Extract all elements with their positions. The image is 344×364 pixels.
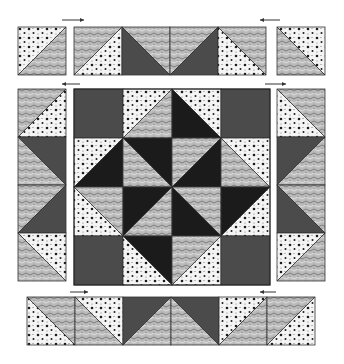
solid-square [221, 89, 270, 138]
half-square-triangle [218, 27, 266, 75]
arrow-top-left-row-icon [62, 18, 84, 22]
half-square-triangle [75, 297, 123, 345]
solid-square [74, 236, 123, 285]
top-strip [74, 27, 266, 75]
half-square-triangle [172, 89, 221, 138]
solid-square [74, 89, 123, 138]
half-square-triangle [123, 138, 172, 187]
half-square-triangle [27, 297, 75, 345]
top-left-square [18, 27, 66, 75]
half-square-triangle [18, 89, 66, 137]
half-square-triangle [171, 297, 219, 345]
arrow-top-right-row-icon [260, 18, 280, 22]
bottom-strip [27, 297, 315, 345]
half-square-triangle [123, 89, 172, 138]
half-square-triangle [170, 27, 218, 75]
half-square-triangle [74, 138, 123, 187]
half-square-triangle [267, 297, 315, 345]
half-square-triangle [172, 187, 221, 236]
half-square-triangle [123, 297, 171, 345]
right-column [277, 89, 325, 281]
half-square-triangle [277, 137, 325, 185]
half-square-triangle [18, 137, 66, 185]
half-square-triangle [277, 185, 325, 233]
half-square-triangle [277, 89, 325, 137]
half-square-triangle [18, 27, 66, 75]
half-square-triangle [219, 297, 267, 345]
solid-square [221, 236, 270, 285]
arrow-bottom-left-icon [70, 290, 88, 294]
half-square-triangle [172, 138, 221, 187]
quilt-assembly-diagram [0, 0, 344, 364]
half-square-triangle [18, 185, 66, 233]
arrow-right-column-icon [265, 82, 286, 86]
center-pinwheel-block [74, 89, 270, 285]
half-square-triangle [123, 236, 172, 285]
half-square-triangle [277, 27, 325, 75]
half-square-triangle [122, 27, 170, 75]
half-square-triangle [172, 236, 221, 285]
half-square-triangle [221, 138, 270, 187]
half-square-triangle [74, 27, 122, 75]
half-square-triangle [74, 187, 123, 236]
half-square-triangle [18, 233, 66, 281]
top-right-square [277, 27, 325, 75]
left-column [18, 89, 66, 281]
half-square-triangle [123, 187, 172, 236]
arrow-left-column-icon [62, 82, 80, 86]
arrow-bottom-right-icon [260, 290, 276, 294]
half-square-triangle [221, 187, 270, 236]
half-square-triangle [277, 233, 325, 281]
